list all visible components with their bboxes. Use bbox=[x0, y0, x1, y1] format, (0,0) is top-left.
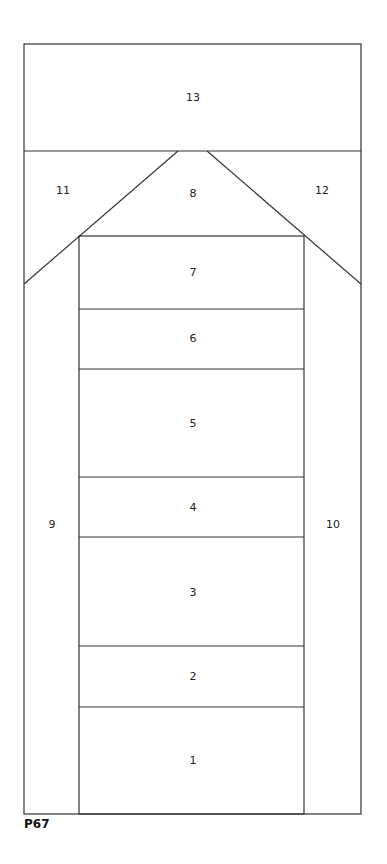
piece-label-12: 12 bbox=[315, 184, 329, 197]
piece-label-3: 3 bbox=[190, 586, 197, 599]
piece-label-13: 13 bbox=[186, 91, 200, 104]
piece-label-10: 10 bbox=[326, 518, 340, 531]
piece-label-11: 11 bbox=[56, 184, 70, 197]
piece-label-8: 8 bbox=[190, 187, 197, 200]
piece-label-5: 5 bbox=[190, 417, 197, 430]
pattern-id-caption: P67 bbox=[24, 817, 50, 831]
foundation-piecing-diagram: 13 11 8 12 7 6 5 4 9 10 3 2 1 bbox=[0, 0, 387, 864]
inner-column bbox=[79, 236, 304, 814]
piece-label-2: 2 bbox=[190, 670, 197, 683]
left-diagonal bbox=[24, 151, 178, 284]
piece-label-6: 6 bbox=[190, 332, 197, 345]
piece-label-4: 4 bbox=[190, 501, 197, 514]
piece-label-1: 1 bbox=[190, 754, 197, 767]
piece-label-9: 9 bbox=[49, 518, 56, 531]
right-diagonal bbox=[207, 151, 361, 284]
piece-label-7: 7 bbox=[190, 266, 197, 279]
